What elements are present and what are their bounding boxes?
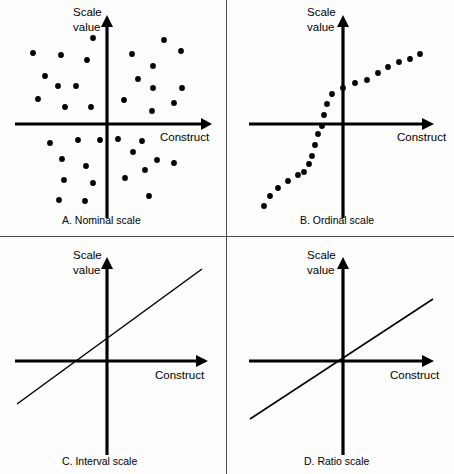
data-point: [417, 51, 423, 57]
data-point: [267, 193, 273, 199]
x-axis-label: Construct: [160, 131, 210, 143]
data-point: [55, 83, 61, 89]
data-point: [309, 153, 315, 159]
data-point: [352, 80, 358, 86]
data-point: [129, 51, 135, 57]
axes-group: [15, 257, 208, 455]
data-point: [171, 100, 177, 106]
ratio-scale-plot: Scale value Construct D. Ratio scale: [227, 237, 454, 474]
panel-caption-ratio: D. Ratio scale: [304, 455, 370, 467]
data-point: [150, 85, 156, 91]
data-point: [82, 198, 88, 204]
data-point: [261, 203, 267, 209]
axes-group: [249, 257, 434, 455]
interval-trend-line: [17, 269, 202, 404]
data-point: [375, 70, 381, 76]
nominal-scale-plot: Scale value Construct A. Nominal scale: [0, 0, 227, 237]
data-point: [340, 85, 346, 91]
data-point: [56, 197, 62, 203]
panel-caption-nominal: A. Nominal scale: [62, 214, 141, 226]
data-point: [171, 160, 177, 166]
panel-caption-interval: C. Interval scale: [62, 455, 137, 467]
y-axis-label-line2: value: [73, 21, 101, 33]
x-axis-label: Construct: [390, 369, 440, 381]
data-point: [83, 163, 89, 169]
data-point: [139, 138, 145, 144]
data-point: [312, 142, 318, 148]
data-point: [122, 175, 128, 181]
data-point: [407, 56, 413, 62]
y-axis-arrowhead: [101, 15, 113, 27]
data-point: [295, 172, 301, 178]
data-point: [178, 48, 184, 54]
y-axis-arrowhead: [101, 257, 113, 269]
y-axis-label-line2: value: [307, 21, 335, 33]
data-point: [150, 63, 156, 69]
data-point: [59, 156, 65, 162]
data-point: [97, 137, 103, 143]
data-point: [84, 57, 90, 63]
data-point: [73, 83, 79, 89]
data-point: [149, 108, 155, 114]
x-axis-label: Construct: [155, 369, 205, 381]
x-axis-label: Construct: [397, 131, 447, 143]
data-point: [142, 167, 148, 173]
y-axis-label-line1: Scale: [73, 6, 102, 18]
y-axis-label-line1: Scale: [73, 249, 102, 261]
panel-nominal-scale: Scale value Construct A. Nominal scale: [0, 0, 227, 237]
y-axis-arrowhead: [337, 15, 349, 27]
data-point: [301, 169, 307, 175]
data-point: [35, 96, 41, 102]
data-point: [396, 59, 402, 65]
y-axis-label-line2: value: [307, 264, 335, 276]
data-point: [62, 104, 68, 110]
data-point: [306, 161, 312, 167]
interval-scale-plot: Scale value Construct C. Interval scale: [0, 237, 227, 474]
data-point: [146, 193, 152, 199]
panel-ordinal-scale: Scale value Construct B. Ordinal scale: [227, 0, 454, 237]
data-point: [61, 177, 67, 183]
y-axis-label-line2: value: [73, 264, 101, 276]
panel-caption-ordinal: B. Ordinal scale: [300, 214, 374, 226]
data-point: [90, 180, 96, 186]
axes-group: [15, 15, 212, 218]
data-point: [179, 85, 185, 91]
y-axis-arrowhead: [337, 257, 349, 269]
data-point: [75, 137, 81, 143]
ordinal-scale-plot: Scale value Construct B. Ordinal scale: [227, 0, 454, 237]
data-point: [321, 112, 327, 118]
data-point: [315, 131, 321, 137]
x-axis-arrowhead: [422, 118, 434, 130]
data-point: [130, 149, 136, 155]
y-axis-label-line1: Scale: [307, 6, 336, 18]
data-point: [329, 91, 335, 97]
data-point: [121, 97, 127, 103]
data-point: [58, 52, 64, 58]
panel-ratio-scale: Scale value Construct D. Ratio scale: [227, 237, 454, 474]
x-axis-arrowhead: [201, 118, 212, 130]
data-point: [30, 50, 36, 56]
data-point: [319, 123, 325, 129]
y-axis-label-line1: Scale: [307, 249, 336, 261]
x-axis-arrowhead: [196, 355, 208, 367]
data-point: [115, 136, 121, 142]
data-point: [90, 35, 96, 41]
data-point: [88, 104, 94, 110]
data-point: [47, 140, 53, 146]
data-point: [135, 76, 141, 82]
data-point: [154, 157, 160, 163]
data-point: [161, 37, 167, 43]
data-point: [285, 178, 291, 184]
data-point: [324, 101, 330, 107]
data-point: [385, 64, 391, 70]
panel-interval-scale: Scale value Construct C. Interval scale: [0, 237, 227, 474]
measurement-scales-figure: Scale value Construct A. Nominal scale: [0, 0, 454, 474]
x-axis-arrowhead: [422, 355, 434, 367]
data-point: [364, 77, 370, 83]
data-point: [42, 73, 48, 79]
data-point: [275, 185, 281, 191]
